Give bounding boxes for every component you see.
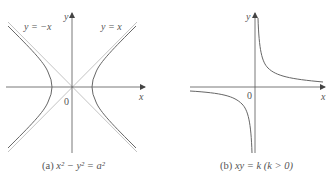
origin-label-a: 0 <box>64 97 69 107</box>
caption-a-equation: x² − y² = a² <box>56 160 105 171</box>
origin-label-b: 0 <box>247 91 252 101</box>
caption-a: (a) x² − y² = a² <box>42 161 105 172</box>
x-axis-label-b: x <box>321 92 325 102</box>
hyperbola-branch-q3 <box>190 91 252 153</box>
x-axis-label-a: x <box>139 92 143 102</box>
asymptote-label-y-x: y = x <box>101 22 122 32</box>
caption-b-equation: xy = k (k > 0) <box>235 160 293 171</box>
caption-a-prefix: (a) <box>42 160 54 171</box>
panel-a-graph <box>6 13 145 153</box>
y-axis-label-a: y <box>64 12 68 22</box>
caption-b: (b) xy = k (k > 0) <box>220 161 293 172</box>
y-axis-label-b: y <box>246 12 250 22</box>
asymptote-label-y-minus-x: y = −x <box>24 22 51 32</box>
caption-b-prefix: (b) <box>220 160 232 171</box>
hyperbola-branch-q1 <box>258 18 323 82</box>
panel-b-graph <box>190 13 325 153</box>
